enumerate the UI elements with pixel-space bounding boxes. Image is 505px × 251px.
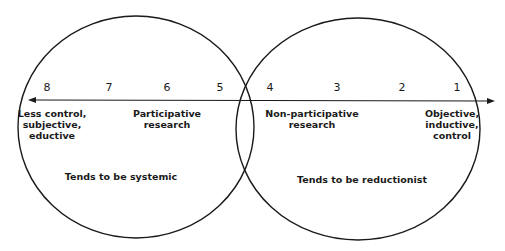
left-end-label: Less control, subjective, eductive xyxy=(18,108,87,141)
tick-6: 6 xyxy=(164,82,171,94)
reductionist-label: Tends to be reductionist xyxy=(297,174,427,185)
left-arrowhead-icon xyxy=(28,97,36,103)
continuum-axis xyxy=(34,100,489,101)
tick-4: 4 xyxy=(267,82,274,94)
participative-research-label: Participative research xyxy=(133,108,201,130)
tick-5: 5 xyxy=(217,82,224,94)
right-arrowhead-icon xyxy=(487,98,495,104)
tick-3: 3 xyxy=(334,82,341,94)
tick-2: 2 xyxy=(399,82,406,94)
non-participative-research-label: Non-participative research xyxy=(265,108,358,130)
tick-1: 1 xyxy=(454,82,461,94)
right-end-label: Objective, inductive, control xyxy=(425,108,479,141)
tick-7: 7 xyxy=(106,82,113,94)
systemic-label: Tends to be systemic xyxy=(65,171,177,182)
tick-8: 8 xyxy=(44,82,51,94)
